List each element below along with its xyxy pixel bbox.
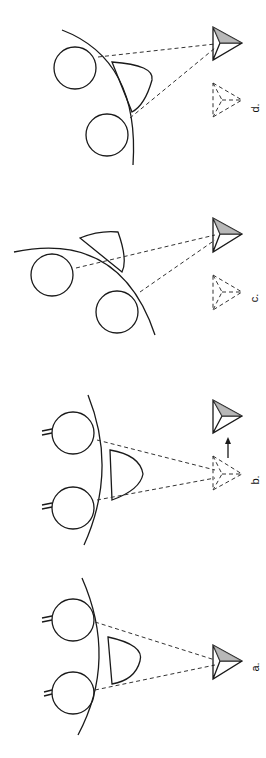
- panel-a: [42, 578, 242, 735]
- face-arc: [14, 248, 155, 335]
- nose: [110, 450, 143, 500]
- face-arc: [78, 578, 99, 735]
- left-eye-icon: [54, 47, 96, 89]
- left-eye-icon: [31, 254, 73, 296]
- dashed-pyramid-icon: [213, 83, 242, 117]
- figure-canvas: [0, 0, 266, 758]
- panel-label-d: d.: [249, 103, 261, 112]
- panel-label-c: c.: [248, 294, 260, 303]
- face-arc: [62, 30, 134, 165]
- right-eye-icon: [96, 291, 138, 333]
- right-eye-icon: [52, 672, 94, 714]
- right-eye-icon: [86, 114, 128, 156]
- nose: [108, 637, 141, 684]
- panel-c: [14, 218, 242, 335]
- left-eye-icon: [52, 412, 94, 454]
- panel-b: [42, 395, 242, 545]
- right-eye-icon: [52, 487, 94, 529]
- left-eye-icon: [52, 599, 94, 641]
- dashed-pyramid-icon: [213, 275, 242, 310]
- panel-label-a: a.: [249, 662, 261, 671]
- panel-label-b: b.: [249, 475, 261, 484]
- panel-d: [54, 27, 242, 165]
- dashed-pyramid-icon: [213, 456, 242, 490]
